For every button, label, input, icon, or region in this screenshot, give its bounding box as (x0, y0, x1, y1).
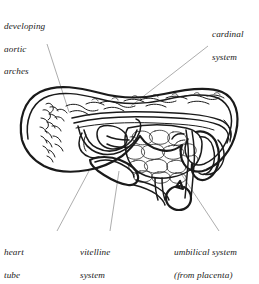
label-line: arches (4, 66, 45, 77)
label-line: developing (4, 21, 45, 32)
label-line: system (80, 270, 111, 281)
label-line: aortic (4, 44, 45, 55)
label-vitelline-system: vitelline system (80, 236, 111, 284)
label-developing-aortic-arches: developing aortic arches (4, 10, 45, 88)
label-cardinal-system: cardinal system (212, 18, 244, 74)
label-line: system (212, 52, 244, 63)
label-line: vitelline (80, 247, 111, 258)
label-umbilical-system: umbilical system (from placenta) (174, 236, 237, 284)
label-line: umbilical system (174, 247, 237, 258)
label-heart-tube: heart tube (4, 236, 24, 284)
label-line: tube (4, 270, 24, 281)
label-line: cardinal (212, 29, 244, 40)
label-line: heart (4, 247, 24, 258)
label-line: (from placenta) (174, 270, 237, 281)
